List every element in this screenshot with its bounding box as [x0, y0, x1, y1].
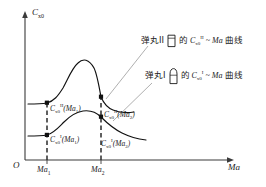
- curve-marker-I-ma1: [45, 133, 49, 137]
- y-axis-label: Cx0: [32, 8, 44, 19]
- curve-marker-II-ma1: [45, 101, 49, 105]
- leader-line-annotation-II: [106, 46, 148, 99]
- x-tick-marks-group: [47, 160, 101, 164]
- annotation-II-tilde: ~: [206, 37, 210, 45]
- curve-point-label-I-ma1: Cx0I(Ma1): [50, 134, 79, 145]
- curve-series-II: [28, 60, 134, 113]
- annotation-I-math: Cx0I: [192, 70, 204, 81]
- annotation-II-math: Cx0II: [190, 35, 204, 46]
- curve-point-label-II-ma2-argend: ): [132, 110, 135, 119]
- curve-point-label-I-ma1-sub: x0: [55, 140, 60, 145]
- x-tick-label-ma1: Ma1: [37, 166, 50, 176]
- curve-point-label-I-ma1-argend: ): [77, 135, 80, 144]
- annotation-I-suffix: 曲线: [225, 71, 243, 80]
- projectile-round-nose-icon: [169, 68, 178, 83]
- annotation-II-math-sub: x0: [195, 41, 200, 46]
- y-axis-label-subscript: x0: [38, 13, 44, 19]
- x-tick-label-ma2-base: Ma: [91, 165, 102, 174]
- annotation-I-tilde: ~: [206, 72, 210, 80]
- curve-point-label-II-ma1-sub: x0: [55, 109, 60, 114]
- curve-point-label-II-ma2: Cx0II(Ma2): [104, 109, 135, 120]
- drag-coefficient-figure: Cx0 O Ma Ma1 Ma2 Cx0II(Ma1) Cx0I(Ma1) Cx…: [0, 0, 266, 187]
- curve-point-label-I-ma1-arg: (Ma: [62, 135, 75, 144]
- annotation-I-math-sub: x0: [197, 76, 202, 81]
- curve-marker-I-ma2: [99, 115, 103, 119]
- curve-point-label-I-ma2-sub: x0: [106, 144, 111, 149]
- annotation-II-mid: 的: [179, 36, 188, 45]
- figure-canvas: [0, 0, 266, 187]
- y-axis-arrowhead: [22, 11, 28, 18]
- projectile-flat-nose-icon: [167, 33, 176, 48]
- curve-point-label-II-ma1-arg: (Ma: [63, 104, 76, 113]
- curve-point-label-II-ma1: Cx0II(Ma1): [50, 103, 81, 114]
- curve-point-label-I-ma2-arg: (Ma: [113, 139, 126, 148]
- annotation-I-math-sup: I: [202, 70, 204, 75]
- annotation-II-prefix: 弹丸II: [141, 36, 164, 45]
- annotation-I-math-tail: Ma: [212, 72, 223, 80]
- annotation-II-math-sup: II: [200, 35, 203, 40]
- curve-point-label-I-ma2-argend: ): [128, 139, 131, 148]
- x-tick-label-ma1-sub: 1: [48, 170, 51, 176]
- curve-point-label-II-ma1-argend: ): [78, 104, 81, 113]
- x-tick-label-ma1-base: Ma: [37, 165, 48, 174]
- annotation-II-suffix: 曲线: [225, 36, 243, 45]
- curve-path-II: [28, 60, 134, 113]
- x-axis-label: Ma: [228, 163, 240, 172]
- curve-point-label-II-ma2-sub: x0: [109, 115, 114, 120]
- annotation-projectile-I: 弹丸I 的 Cx0I ~ Ma 曲线: [145, 68, 243, 83]
- x-tick-label-ma2-sub: 2: [102, 170, 105, 176]
- annotation-I-mid: 的: [181, 71, 190, 80]
- annotation-projectile-II: 弹丸II 的 Cx0II ~ Ma 曲线: [141, 33, 243, 48]
- origin-label: O: [13, 161, 20, 170]
- annotation-II-math-tail: Ma: [212, 37, 223, 45]
- x-tick-label-ma2: Ma2: [91, 166, 104, 176]
- curve-point-label-I-ma2: Cx0I(Ma2): [101, 138, 130, 149]
- curve-marker-II-ma2: [99, 95, 103, 99]
- curve-point-label-II-ma2-arg: (Ma: [117, 110, 130, 119]
- annotation-I-prefix: 弹丸I: [145, 71, 166, 80]
